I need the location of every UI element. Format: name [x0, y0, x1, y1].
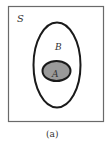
- venn-diagram: S B A (a): [0, 0, 111, 143]
- universe-label: S: [17, 13, 24, 24]
- caption: (a): [46, 129, 58, 139]
- set-b-label: B: [54, 42, 62, 52]
- set-a-label: A: [51, 69, 59, 79]
